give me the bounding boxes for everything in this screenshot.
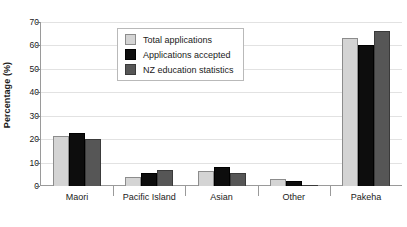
- bar: [374, 31, 390, 186]
- x-axis-tick-label: Pakeha: [330, 192, 402, 202]
- legend-item-label: Total applications: [143, 35, 212, 45]
- bar: [69, 133, 85, 186]
- bar: [125, 177, 141, 186]
- y-axis-title-label: Percentage (%): [2, 62, 12, 128]
- legend-item: NZ education statistics: [125, 64, 234, 75]
- x-axis-tick-label: Pacific Island: [113, 192, 185, 202]
- bar: [198, 171, 214, 186]
- bar: [53, 136, 69, 186]
- bar-group: [330, 22, 402, 186]
- bar: [358, 45, 374, 186]
- y-axis-tick-mark: [36, 69, 40, 70]
- y-axis-tick-mark: [36, 186, 40, 187]
- legend-item-label: Applications accepted: [143, 50, 231, 60]
- bar: [270, 179, 286, 186]
- bar: [157, 170, 173, 186]
- bar: [286, 181, 302, 186]
- y-axis-tick-mark: [36, 139, 40, 140]
- x-axis-tick-labels: MaoriPacific IslandAsianOtherPakeha: [41, 192, 402, 202]
- bar: [302, 185, 318, 186]
- legend-swatch: [125, 64, 136, 75]
- bar: [230, 173, 246, 186]
- bar: [141, 173, 157, 186]
- bar-chart: Percentage (%) MaoriPacific IslandAsianO…: [0, 0, 407, 227]
- x-axis-tick-label: Maori: [41, 192, 113, 202]
- bar-group: [41, 22, 113, 186]
- legend-item-label: NZ education statistics: [143, 65, 234, 75]
- bar: [85, 139, 101, 186]
- y-axis-title: Percentage (%): [0, 0, 14, 190]
- y-axis-tick-mark: [36, 22, 40, 23]
- legend-item: Total applications: [125, 34, 234, 45]
- y-axis-tick-mark: [36, 163, 40, 164]
- legend-swatch: [125, 34, 136, 45]
- y-axis-tick-mark: [36, 45, 40, 46]
- x-axis-tick-label: Other: [258, 192, 330, 202]
- bar: [214, 167, 230, 186]
- y-axis-tick-mark: [36, 92, 40, 93]
- x-axis-tick-label: Asian: [185, 192, 257, 202]
- legend-swatch: [125, 49, 136, 60]
- legend-item: Applications accepted: [125, 49, 234, 60]
- bar-group: [258, 22, 330, 186]
- bar: [342, 38, 358, 186]
- y-axis-tick-mark: [36, 116, 40, 117]
- chart-legend: Total applicationsApplications acceptedN…: [117, 28, 244, 81]
